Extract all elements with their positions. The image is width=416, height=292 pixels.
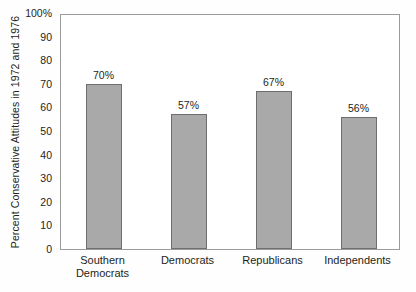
bar-republicans: [256, 91, 292, 249]
bar-chart-figure: Percent Conservative Attitudes in 1972 a…: [0, 0, 416, 292]
x-axis-label-southern-democrats: SouthernDemocrats: [60, 254, 145, 280]
bar-group: 57%: [171, 13, 207, 249]
y-axis-tick-label: 90: [40, 31, 52, 43]
y-axis-tick-label: 40: [40, 149, 52, 161]
x-axis-label-line: Democrats: [60, 267, 145, 280]
y-axis-tick-label: 0: [46, 243, 52, 255]
y-axis-tick-label: 20: [40, 196, 52, 208]
y-axis-tick-label: 50: [40, 125, 52, 137]
bar-group: 67%: [256, 13, 292, 249]
x-axis-label-independents: Independents: [315, 254, 400, 267]
bar-democrats: [171, 114, 207, 249]
bar-value-label: 67%: [263, 76, 284, 88]
y-axis-tick-label: 100%: [25, 7, 52, 19]
bar-group: 56%: [341, 13, 377, 249]
x-axis-label-line: Southern: [60, 254, 145, 267]
y-axis-title: Percent Conservative Attitudes in 1972 a…: [2, 6, 28, 258]
y-axis-tick-label: 10: [40, 219, 52, 231]
y-axis-tick-label: 70: [40, 78, 52, 90]
x-axis-label-democrats: Democrats: [145, 254, 230, 267]
bar-independents: [341, 117, 377, 249]
plot-area: 70%57%67%56%: [60, 14, 400, 250]
bar-value-label: 56%: [348, 102, 369, 114]
bar-value-label: 57%: [178, 99, 199, 111]
x-axis-label-republicans: Republicans: [230, 254, 315, 267]
x-axis-label-line: Republicans: [230, 254, 315, 267]
bar-group: 70%: [86, 13, 122, 249]
x-axis-label-line: Democrats: [145, 254, 230, 267]
y-axis-tick-label: 60: [40, 101, 52, 113]
bar-southern-democrats: [86, 84, 122, 249]
y-axis-tick-label: 80: [40, 54, 52, 66]
x-axis-label-line: Independents: [315, 254, 400, 267]
bar-value-label: 70%: [93, 69, 114, 81]
y-axis-tick-label: 30: [40, 172, 52, 184]
